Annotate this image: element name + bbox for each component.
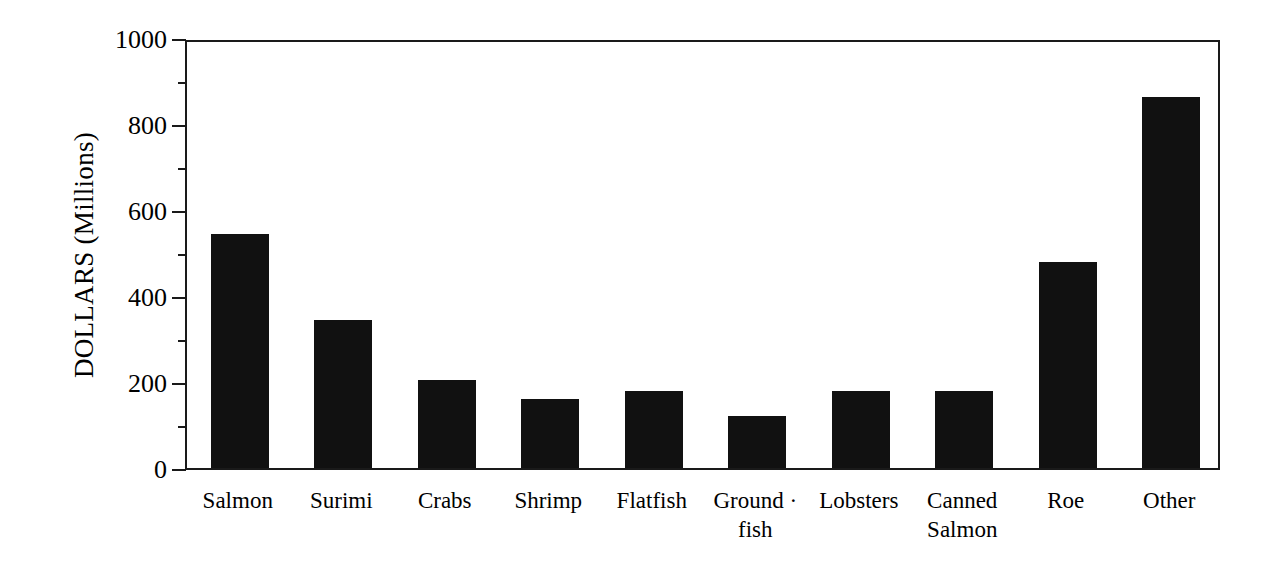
bar xyxy=(728,416,786,468)
y-tick-mark xyxy=(172,39,186,41)
x-tick-label: Salmon xyxy=(186,486,290,515)
x-tick-label: Ground ·fish xyxy=(704,486,808,544)
y-tick-mark xyxy=(172,125,186,127)
x-tick-label-line2: Salmon xyxy=(911,515,1015,544)
x-tick-label: Other xyxy=(1118,486,1222,515)
x-tick-label-line1: Roe xyxy=(1047,488,1084,513)
x-tick-label: CannedSalmon xyxy=(911,486,1015,544)
y-tick-mark xyxy=(172,211,186,213)
y-tick-label: 1000 xyxy=(115,27,167,53)
y-tick-mark xyxy=(172,469,186,471)
x-tick-label-line2: fish xyxy=(704,515,808,544)
x-tick-label-line1: Shrimp xyxy=(514,488,582,513)
bar xyxy=(832,391,890,468)
bar xyxy=(1142,97,1200,468)
bar xyxy=(314,320,372,468)
x-tick-label-line1: Canned xyxy=(927,488,997,513)
x-tick-label-line1: Flatfish xyxy=(617,488,687,513)
x-tick-label-line1: Other xyxy=(1143,488,1195,513)
y-tick-label: 400 xyxy=(128,285,167,311)
x-tick-label-line1: Surimi xyxy=(310,488,373,513)
bar xyxy=(418,380,476,468)
y-tick-label: 200 xyxy=(128,371,167,397)
bar xyxy=(211,234,269,468)
x-tick-label: Roe xyxy=(1014,486,1118,515)
y-tick-mark xyxy=(172,297,186,299)
y-tick-label: 600 xyxy=(128,199,167,225)
y-tick-mark xyxy=(172,383,186,385)
x-tick-label: Surimi xyxy=(290,486,394,515)
bar-chart-figure: DOLLARS (Millions) 10008006004002000 Sal… xyxy=(0,0,1271,578)
x-tick-label-line1: Ground · xyxy=(713,488,797,513)
y-tick-label: 800 xyxy=(128,113,167,139)
x-tick-label: Flatfish xyxy=(600,486,704,515)
bar xyxy=(935,391,993,468)
y-axis-title: DOLLARS (Millions) xyxy=(56,40,112,470)
bar xyxy=(521,399,579,468)
x-tick-label-line1: Lobsters xyxy=(819,488,898,513)
bar xyxy=(1039,262,1097,468)
x-tick-label-line1: Salmon xyxy=(203,488,273,513)
y-tick-label: 0 xyxy=(154,457,167,483)
x-tick-label: Crabs xyxy=(393,486,497,515)
x-tick-label-line1: Crabs xyxy=(418,488,472,513)
x-tick-label: Shrimp xyxy=(497,486,601,515)
plot-area xyxy=(185,40,1220,470)
bar xyxy=(625,391,683,468)
x-tick-label: Lobsters xyxy=(807,486,911,515)
